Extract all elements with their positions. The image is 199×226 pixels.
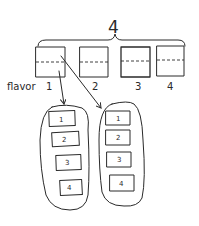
group-2: 1 2 3 4: [99, 102, 144, 206]
group-1-item-3-label: 3: [65, 159, 69, 167]
group-2-item-2-label: 2: [116, 134, 120, 142]
top-box-2: [80, 47, 108, 77]
total-count-label: 4: [108, 17, 119, 37]
top-box-4: [157, 46, 184, 76]
diagram-canvas: 4 flavor 1 2 3 4 1 2 3 4: [0, 0, 199, 226]
group-1-item-2-label: 2: [62, 136, 66, 144]
top-box-1: [36, 47, 65, 77]
group-1: 1 2 3 4: [40, 105, 89, 210]
top-box-3: [121, 47, 150, 77]
top-box-4-label: 4: [167, 81, 173, 92]
group-2-item-3-label: 3: [117, 156, 121, 164]
group-2-item-4-label: 4: [119, 180, 124, 188]
group-1-item-4-label: 4: [67, 184, 72, 192]
top-box-2-label: 2: [92, 81, 98, 92]
arrow-to-group-1: [59, 71, 64, 104]
group-1-item-1-label: 1: [59, 116, 63, 124]
top-box-3-label: 3: [135, 81, 141, 92]
row-label-flavor: flavor: [7, 81, 36, 92]
group-2-item-1-label: 1: [116, 115, 120, 123]
top-box-1-label: 1: [46, 81, 52, 92]
